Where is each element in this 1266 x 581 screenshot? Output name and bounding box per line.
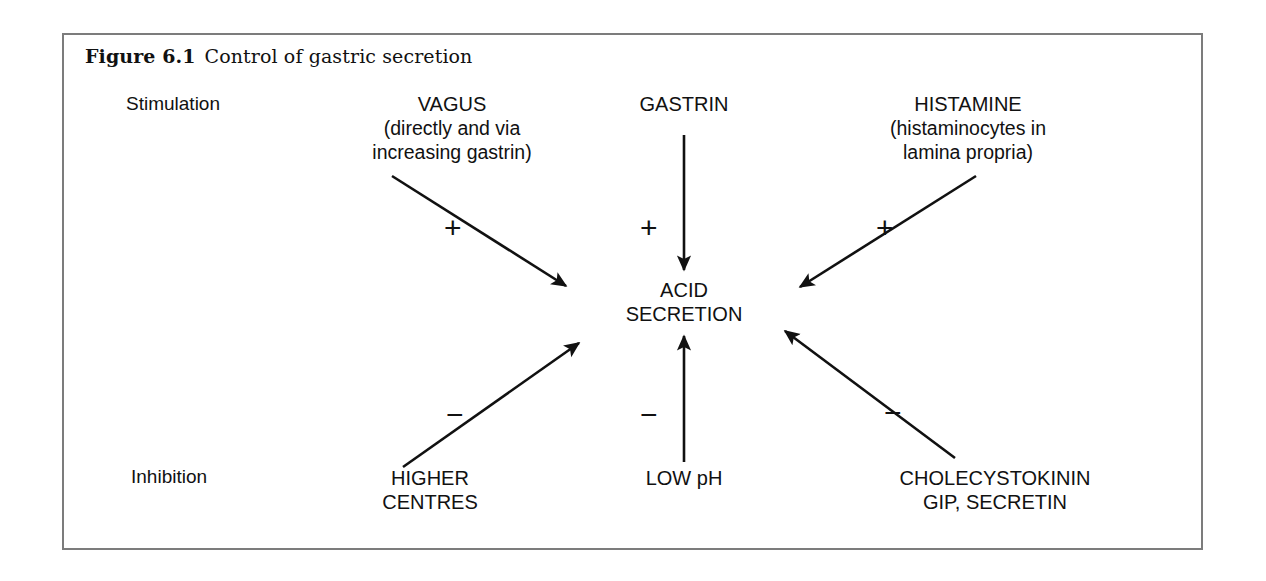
node-histamine: HISTAMINE (histaminocytes in lamina prop… [838, 92, 1098, 164]
sign-plus-vagus: + [444, 213, 462, 243]
node-vagus-line3: increasing gastrin) [322, 140, 582, 164]
sign-plus-gastrin: + [640, 213, 658, 243]
figure-number: Figure 6.1 [85, 45, 196, 67]
node-higher-centres-line2: CENTRES [330, 490, 530, 514]
sign-minus-low-ph: − [640, 400, 658, 430]
node-low-ph-line1: LOW pH [604, 466, 764, 490]
node-cholecystokinin-line1: CHOLECYSTOKININ [850, 466, 1140, 490]
node-low-ph: LOW pH [604, 466, 764, 490]
node-higher-centres-line1: HIGHER [330, 466, 530, 490]
node-cholecystokinin-line2: GIP, SECRETIN [850, 490, 1140, 514]
node-acid-secretion-line2: SECRETION [604, 302, 764, 326]
node-histamine-line1: HISTAMINE [838, 92, 1098, 116]
node-vagus-line1: VAGUS [322, 92, 582, 116]
sign-minus-cholecystokinin: − [884, 398, 902, 428]
sign-minus-higher-centres: − [446, 400, 464, 430]
node-vagus: VAGUS (directly and via increasing gastr… [322, 92, 582, 164]
node-cholecystokinin: CHOLECYSTOKININ GIP, SECRETIN [850, 466, 1140, 514]
label-stimulation: Stimulation [126, 93, 220, 115]
figure-title: Control of gastric secretion [205, 45, 473, 67]
node-acid-secretion-line1: ACID [604, 278, 764, 302]
node-gastrin: GASTRIN [604, 92, 764, 116]
node-acid-secretion: ACID SECRETION [604, 278, 764, 326]
figure-root: Figure 6.1Control of gastric secretion S… [0, 0, 1266, 581]
sign-plus-histamine: + [876, 213, 894, 243]
node-histamine-line2: (histaminocytes in [838, 116, 1098, 140]
node-gastrin-line1: GASTRIN [604, 92, 764, 116]
node-vagus-line2: (directly and via [322, 116, 582, 140]
label-inhibition: Inhibition [131, 466, 207, 488]
node-higher-centres: HIGHER CENTRES [330, 466, 530, 514]
node-histamine-line3: lamina propria) [838, 140, 1098, 164]
figure-caption: Figure 6.1Control of gastric secretion [85, 45, 472, 67]
